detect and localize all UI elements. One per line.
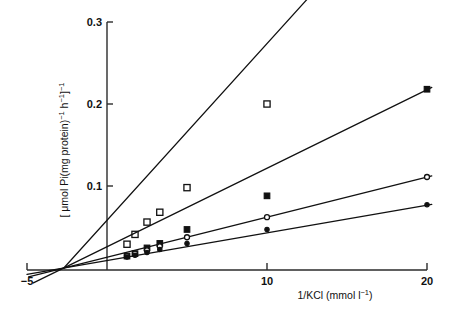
marker-filled-circle-6 [425, 203, 429, 207]
marker-open-circle-4 [185, 235, 190, 240]
marker-open-square-4 [184, 185, 190, 191]
marker-filled-circle-2 [145, 250, 149, 254]
series-line-open-square [64, 0, 325, 268]
x-tick-label-2: 20 [421, 275, 433, 287]
marker-filled-square-6 [424, 86, 430, 92]
series-line-filled-circle [27, 204, 432, 274]
series-filled-circle [27, 203, 432, 275]
marker-open-square-2 [144, 219, 150, 225]
x-axis-title: 1/KCl (mmol l−1) [297, 288, 372, 301]
marker-open-circle-5 [265, 215, 270, 220]
marker-filled-square-4 [184, 227, 190, 233]
x-tick-label-0: −5 [21, 275, 34, 287]
x-tick-label-1: 10 [261, 275, 273, 287]
y-tick-label-2: 0.3 [87, 16, 102, 28]
y-tick-label-1: 0.2 [87, 98, 102, 110]
series-open-square [64, 0, 325, 268]
y-tick-label-0: 0.1 [87, 180, 102, 192]
marker-filled-circle-3 [158, 247, 162, 251]
marker-filled-circle-5 [265, 227, 269, 231]
marker-filled-circle-1 [133, 253, 137, 257]
marker-filled-square-5 [264, 193, 270, 199]
lineweaver-burk-plot: −510200.10.20.31/KCl (mmol l−1)[ μmol Pi… [0, 0, 450, 321]
marker-open-square-3 [157, 209, 163, 215]
marker-open-square-5 [264, 101, 270, 107]
marker-filled-circle-0 [125, 255, 129, 259]
marker-filled-circle-4 [185, 241, 189, 245]
marker-open-circle-6 [425, 174, 430, 179]
y-axis-title: [ μmol Pi(mg protein)−1 h−1]−1 [57, 82, 70, 217]
marker-open-square-0 [124, 241, 130, 247]
